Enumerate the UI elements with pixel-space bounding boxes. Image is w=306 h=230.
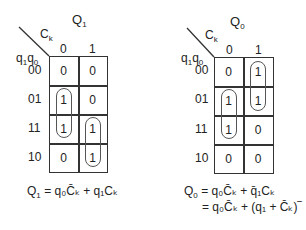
cell-01-1: 0 xyxy=(78,85,107,114)
kmap-q0: Q0 Ck q1q0 0 1 00 01 11 10 0 1 1 1 1 0 0… xyxy=(153,0,306,230)
row-header-10: 10 xyxy=(28,150,41,164)
cell-00-0: 0 xyxy=(214,57,243,86)
row-header-11: 11 xyxy=(28,121,40,135)
row-header-00: 00 xyxy=(195,63,208,77)
column-variable-label: Ck xyxy=(205,28,218,42)
cell-10-0: 0 xyxy=(49,143,78,172)
row-header-11: 11 xyxy=(195,122,207,136)
map-title: Q1 xyxy=(72,12,87,27)
row-header-10: 10 xyxy=(195,151,208,165)
equation-q0-line1: Q0 = q₀C̄ₖ + q̄₁Cₖ xyxy=(184,184,275,198)
column-header-1: 1 xyxy=(255,43,262,57)
cell-10-0: 0 xyxy=(214,144,243,173)
row-header-01: 01 xyxy=(195,92,208,106)
row-header-01: 01 xyxy=(28,92,41,106)
column-header-0: 0 xyxy=(60,42,67,56)
group-loop xyxy=(221,89,237,139)
cell-11-1: 0 xyxy=(243,115,273,144)
column-variable-label: Ck xyxy=(40,27,53,41)
column-header-0: 0 xyxy=(226,43,233,57)
group-loop xyxy=(56,88,72,138)
map-title: Q0 xyxy=(230,14,245,29)
cell-00-1: 0 xyxy=(78,56,107,85)
equation-q0-line2: = q₀C̄ₖ + (q₁ + C̄ₖ)‾ xyxy=(202,200,301,214)
row-header-00: 00 xyxy=(28,63,41,77)
equation-q1: Q1 = q₀C̄ₖ + q₁Cₖ xyxy=(27,184,118,198)
column-header-1: 1 xyxy=(89,42,96,56)
group-loop xyxy=(250,61,266,111)
group-loop xyxy=(85,117,101,167)
cell-10-1: 0 xyxy=(243,144,273,173)
kmap-q1: Q1 Ck q1q0 0 1 00 01 11 10 0 0 1 0 1 1 0… xyxy=(0,0,153,230)
cell-00-0: 0 xyxy=(49,56,78,85)
